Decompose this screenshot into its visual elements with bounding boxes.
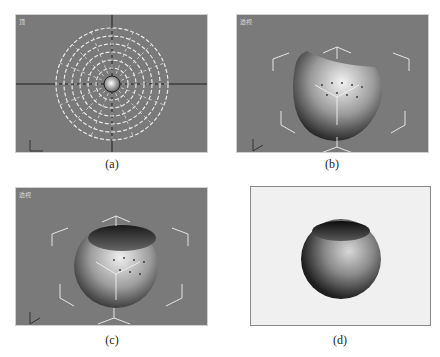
caption-b: (b)	[312, 157, 352, 172]
viewport-perspective-b[interactable]: 透视	[236, 14, 429, 153]
open-sphere-vertices	[16, 188, 208, 326]
caption-d: (d)	[320, 333, 360, 348]
cut-sphere	[237, 15, 429, 153]
caption-c: (c)	[92, 333, 132, 348]
viewport-top[interactable]: 顶	[15, 14, 208, 153]
hemisphere-wireframe	[16, 15, 208, 153]
render-output	[250, 186, 431, 326]
caption-a: (a)	[92, 157, 132, 172]
viewport-perspective-c[interactable]: 透视	[15, 187, 208, 326]
rendered-bowl	[251, 187, 431, 326]
